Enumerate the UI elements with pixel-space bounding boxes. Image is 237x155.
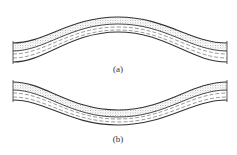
geologic-folds-diagram [0,0,237,155]
panel-b-label: (b) [113,134,124,144]
upper-dotted-layer [13,17,227,51]
panel-a-label: (a) [113,64,123,74]
panel-a-anticline [13,17,227,64]
panel-b-syncline [13,80,227,125]
